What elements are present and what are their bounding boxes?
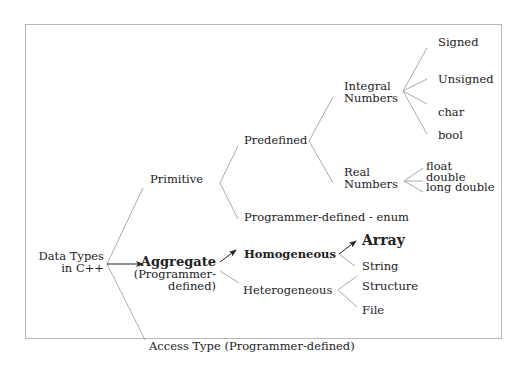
node-char: char — [438, 106, 464, 118]
node-heterogeneous: Heterogeneous — [243, 284, 332, 296]
edge-heterogeneous-file — [338, 290, 357, 307]
node-integral-line2: Numbers — [344, 92, 398, 104]
edge-predefined-integral — [309, 97, 333, 141]
node-aggregate: Aggregate (Programmer- defined) — [130, 256, 216, 292]
node-long-double: long double — [426, 182, 495, 192]
edge-predefined-real — [309, 141, 333, 183]
node-integral-numbers: Integral Numbers — [344, 80, 398, 104]
node-unsigned: Unsigned — [438, 73, 494, 85]
edge-aggregate-homogeneous — [220, 250, 236, 262]
node-access-type: Access Type (Programmer-defined) — [149, 340, 355, 352]
edge-homogeneous-array — [339, 241, 356, 254]
edge-primitive-predefined — [220, 146, 238, 183]
edge-real-long-double — [404, 181, 423, 192]
node-root-line2: in C++ — [30, 262, 104, 274]
node-real-line2: Numbers — [344, 178, 398, 190]
edge-real-float — [404, 168, 423, 181]
node-real-numbers: Real Numbers — [344, 166, 398, 190]
edge-homogeneous-string — [339, 254, 355, 266]
node-bool: bool — [438, 129, 463, 141]
node-primitive: Primitive — [150, 173, 203, 185]
node-signed: Signed — [438, 36, 479, 48]
edge-primitive-enum — [220, 183, 238, 219]
node-string: String — [362, 260, 398, 272]
edge-aggregate-heterogeneous — [220, 271, 239, 283]
node-array: Array — [362, 234, 405, 246]
node-homogeneous: Homogeneous — [244, 248, 336, 260]
node-aggregate-line3: defined) — [130, 280, 216, 292]
edge-heterogeneous-structure — [338, 276, 357, 290]
node-enum: Programmer-defined - enum — [244, 211, 409, 223]
node-predefined: Predefined — [244, 134, 307, 146]
node-root: Data Types in C++ — [30, 250, 104, 274]
node-file: File — [362, 304, 384, 316]
edge-root-primitive — [107, 188, 143, 264]
node-structure: Structure — [362, 280, 418, 292]
